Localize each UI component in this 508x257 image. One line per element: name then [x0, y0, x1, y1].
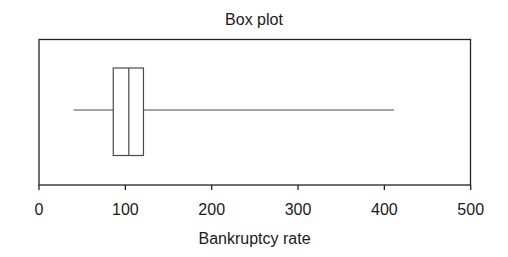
x-tick-label: 100: [112, 201, 139, 218]
x-tick-label: 0: [35, 201, 44, 218]
x-tick-label: 200: [198, 201, 225, 218]
plot-frame: [39, 40, 471, 186]
x-axis-label: Bankruptcy rate: [198, 230, 310, 247]
x-axis: 0100200300400500: [35, 185, 485, 218]
x-tick-label: 400: [371, 201, 398, 218]
x-tick-label: 500: [457, 201, 484, 218]
chart-title: Box plot: [225, 11, 283, 28]
x-tick-label: 300: [285, 201, 312, 218]
box-plot-chart: Box plot 0100200300400500 Bankruptcy rat…: [0, 0, 508, 257]
box-element: [74, 68, 394, 156]
